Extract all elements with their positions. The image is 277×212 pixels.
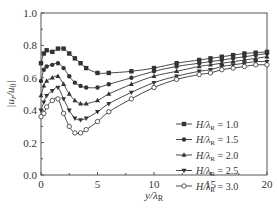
circle-marker-icon [152,69,156,73]
legend-item: H/λR = 2.0 [176,150,238,163]
x-tick-label: 20 [262,178,274,190]
y-axis-title: |ur/u0| [4,80,18,107]
open-circle-marker-icon [42,111,46,115]
open-circle-marker-icon [182,184,186,188]
y-tick-label: 0.4 [23,104,37,116]
circle-marker-icon [84,85,88,89]
legend-item: H/λR = 3.0 [176,181,238,194]
x-tick-label: 0 [38,178,44,190]
open-circle-marker-icon [44,105,48,109]
circle-marker-icon [107,82,111,86]
open-circle-marker-icon [67,124,71,128]
legend-label: H/λR = 1.5 [195,134,238,147]
triangle-down-marker-icon [44,94,49,98]
triangle-down-marker-icon [61,97,66,101]
square-marker-icon [56,46,60,50]
open-circle-marker-icon [254,63,258,67]
triangle-down-marker-icon [50,89,55,93]
x-axis-title: y/λR [144,189,164,203]
square-marker-icon [61,46,65,50]
open-circle-marker-icon [56,97,60,101]
legend-label: H/λR = 3.0 [195,181,238,194]
open-circle-marker-icon [208,71,212,75]
axis-ticks: 051015200.00.20.40.60.81.0 [23,7,273,190]
line-chart: 051015200.00.20.40.60.81.0 H/λR = 1.0H/λ… [0,0,277,212]
circle-marker-icon [56,61,60,65]
circle-marker-icon [95,85,99,89]
legend: H/λR = 1.0H/λR = 1.5H/λR = 2.0H/λR = 2.5… [176,119,238,194]
triangle-up-marker-icon [61,82,66,86]
legend-item: H/λR = 1.5 [176,134,238,147]
triangle-down-marker-icon [106,102,111,106]
legend-label: H/λR = 1.0 [195,119,238,132]
legend-label: H/λR = 2.0 [195,150,238,163]
open-circle-marker-icon [50,98,54,102]
open-circle-marker-icon [174,77,178,81]
square-marker-icon [95,71,99,75]
open-circle-marker-icon [107,110,111,114]
circle-marker-icon [67,74,71,78]
circle-marker-icon [39,79,43,83]
y-tick-label: 0.6 [23,72,37,84]
square-marker-icon [182,122,186,126]
square-marker-icon [129,69,133,73]
open-circle-marker-icon [265,63,269,67]
open-circle-marker-icon [220,68,224,72]
triangle-up-marker-icon [44,78,49,82]
square-marker-icon [78,61,82,65]
open-circle-marker-icon [95,119,99,123]
open-circle-marker-icon [78,131,82,135]
y-tick-label: 0.2 [23,137,37,149]
open-circle-marker-icon [84,127,88,131]
x-tick-label: 5 [95,178,101,190]
triangle-down-marker-icon [95,110,100,114]
y-tick-label: 0.0 [23,169,37,181]
square-marker-icon [73,56,77,60]
triangle-up-marker-icon [182,152,187,156]
square-marker-icon [39,61,43,65]
open-circle-marker-icon [61,111,65,115]
triangle-down-marker-icon [41,100,46,104]
open-circle-marker-icon [129,97,133,101]
square-marker-icon [107,71,111,75]
circle-marker-icon [174,64,178,68]
triangle-down-marker-icon [67,109,72,113]
circle-marker-icon [78,84,82,88]
open-circle-marker-icon [152,85,156,89]
triangle-up-marker-icon [41,83,46,87]
square-marker-icon [50,50,54,54]
open-circle-marker-icon [231,66,235,70]
triangle-down-marker-icon [78,118,83,122]
open-circle-marker-icon [197,72,201,76]
square-marker-icon [44,48,48,52]
circle-marker-icon [73,80,77,84]
series-3 [39,54,270,105]
circle-marker-icon [44,64,48,68]
legend-label: H/λR = 2.5 [195,165,238,178]
circle-marker-icon [129,76,133,80]
legend-item: H/λR = 2.5 [176,165,238,178]
open-circle-marker-icon [73,131,77,135]
triangle-down-marker-icon [72,117,77,121]
circle-marker-icon [182,137,186,141]
circle-marker-icon [61,66,65,70]
open-circle-marker-icon [242,64,246,68]
circle-marker-icon [50,63,54,67]
y-tick-label: 1.0 [23,7,37,19]
square-marker-icon [84,66,88,70]
triangle-down-marker-icon [182,169,187,173]
legend-item: H/λR = 1.0 [176,119,238,132]
y-tick-label: 0.8 [23,39,37,51]
square-marker-icon [67,51,71,55]
